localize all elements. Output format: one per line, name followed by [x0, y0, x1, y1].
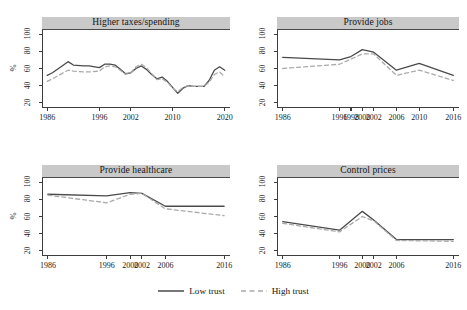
x-tick-mark: [350, 107, 351, 111]
x-tick-mark: [419, 107, 420, 111]
x-tick-mark: [453, 107, 454, 111]
x-tick-mark: [396, 107, 397, 111]
series-layer: [277, 178, 459, 255]
legend-entry-low-trust: Low trust: [158, 286, 224, 296]
panel-title-text: Provide jobs: [344, 18, 393, 28]
panel-higher-taxes-spending: Higher taxes/spending2040608010019861996…: [42, 17, 230, 133]
x-tick-label: 2016: [438, 113, 467, 122]
panel-control-prices: Control prices20406080100198619962000200…: [277, 165, 459, 281]
series-line-high-trust: [48, 193, 224, 215]
panel-title-bar: Control prices: [277, 165, 459, 178]
series-line-high-trust: [283, 217, 454, 242]
x-tick-label: 2002: [116, 113, 146, 122]
panel-title-text: Higher taxes/spending: [92, 18, 179, 28]
x-tick-mark: [282, 255, 283, 259]
legend-swatch-solid-icon: [158, 287, 184, 295]
y-tick-label: 100: [23, 172, 32, 192]
x-tick-mark: [130, 107, 131, 111]
x-tick-label: 1986: [32, 113, 62, 122]
x-tick-label: 2016: [438, 261, 467, 270]
x-tick-mark: [141, 255, 142, 259]
x-axis-line: [277, 107, 459, 108]
y-tick-label: 100: [258, 172, 267, 192]
series-line-low-trust: [283, 211, 454, 239]
y-tick-label: 60: [258, 58, 267, 78]
panel-provide-healthcare: Provide healthcare2040608010019861996200…: [42, 165, 230, 281]
x-tick-label: 2006: [150, 261, 180, 270]
x-tick-mark: [373, 255, 374, 259]
panel-title-bar: Higher taxes/spending: [42, 17, 230, 30]
y-axis-label-percent: %: [8, 209, 18, 223]
figure-small-multiples-chart: Higher taxes/spending2040608010019861996…: [0, 0, 467, 310]
x-tick-mark: [130, 255, 131, 259]
x-tick-mark: [282, 107, 283, 111]
x-tick-label: 1986: [268, 113, 298, 122]
y-tick-label: 80: [23, 41, 32, 61]
x-tick-label: 1986: [268, 261, 298, 270]
y-tick-label: 80: [23, 189, 32, 209]
legend-swatch-dashed-icon: [241, 287, 267, 295]
x-tick-mark: [339, 107, 340, 111]
y-tick-label: 80: [258, 189, 267, 209]
panel-title-bar: Provide healthcare: [42, 165, 230, 178]
x-tick-label: 2010: [404, 113, 434, 122]
x-tick-mark: [362, 255, 363, 259]
x-tick-mark: [373, 107, 374, 111]
x-axis-line: [42, 255, 230, 256]
x-tick-mark: [47, 107, 48, 111]
panel-title-text: Control prices: [340, 166, 396, 176]
x-tick-label: 1996: [84, 113, 114, 122]
plot-area: 2040608010019861996199820002002200620102…: [277, 30, 459, 107]
x-tick-mark: [47, 255, 48, 259]
x-tick-mark: [106, 255, 107, 259]
x-tick-mark: [165, 255, 166, 259]
x-tick-mark: [99, 107, 100, 111]
plot-area: 20406080100198619962000200220062016: [277, 178, 459, 255]
x-tick-mark: [339, 255, 340, 259]
y-axis-label-percent: %: [8, 61, 18, 75]
panel-title-text: Provide healthcare: [100, 166, 173, 176]
chart-legend: Low trust High trust: [0, 282, 467, 300]
x-tick-label: 2016: [209, 261, 239, 270]
x-axis-line: [42, 107, 230, 108]
x-tick-mark: [362, 107, 363, 111]
x-axis-line: [277, 255, 459, 256]
x-tick-mark: [453, 255, 454, 259]
y-tick-label: 100: [23, 24, 32, 44]
series-layer: [42, 178, 230, 255]
legend-label-low-trust: Low trust: [189, 286, 224, 296]
x-tick-label: 1986: [33, 261, 63, 270]
x-tick-label: 2010: [158, 113, 188, 122]
plot-area: 2040608010019861996200220102020: [42, 30, 230, 107]
x-tick-mark: [396, 255, 397, 259]
panel-provide-jobs: Provide jobs2040608010019861996199820002…: [277, 17, 459, 133]
x-tick-mark: [224, 107, 225, 111]
y-tick-label: 60: [23, 58, 32, 78]
y-tick-label: 100: [258, 24, 267, 44]
y-tick-label: 60: [23, 206, 32, 226]
legend-label-high-trust: High trust: [272, 286, 309, 296]
y-tick-label: 60: [258, 206, 267, 226]
y-tick-label: 80: [258, 41, 267, 61]
panel-title-bar: Provide jobs: [277, 17, 459, 30]
legend-entry-high-trust: High trust: [241, 286, 309, 296]
x-tick-mark: [172, 107, 173, 111]
x-tick-label: 2006: [381, 261, 411, 270]
series-line-low-trust: [48, 193, 224, 207]
x-tick-mark: [224, 255, 225, 259]
series-layer: [277, 30, 459, 107]
x-tick-label: 2020: [210, 113, 240, 122]
plot-area: 20406080100198619962000200220062016: [42, 178, 230, 255]
series-layer: [42, 30, 230, 107]
